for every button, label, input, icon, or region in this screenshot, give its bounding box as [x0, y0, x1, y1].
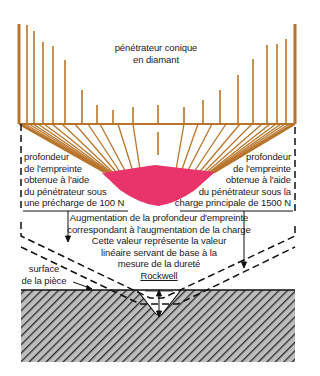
- increase-label: Augmentation de la profondeur d'empreint…: [64, 212, 254, 281]
- label-line: obtenue à l'aide: [24, 174, 124, 186]
- surface-pointer-icon: [87, 286, 93, 291]
- label-line: de la pièce: [20, 275, 68, 287]
- penetrator-fan-line: [133, 124, 140, 170]
- surface-label: surface de la pièce: [20, 263, 68, 286]
- label-line: profondeur: [175, 151, 291, 163]
- label-line: surface: [20, 263, 68, 275]
- label-line: pénétrateur conique: [100, 42, 212, 54]
- mainload-depth-label: profondeur de l'empreinte obtenue à l'ai…: [175, 151, 291, 209]
- label-line: de l'empreinte: [24, 163, 124, 175]
- penetrator-label: pénétrateur conique en diamant: [100, 42, 212, 65]
- workpiece: [21, 290, 295, 362]
- rockwell-label: Rockwell: [64, 270, 254, 282]
- label-line: obtenue à l'aide: [175, 174, 291, 186]
- label-line: correspondant à l'augmentation de la cha…: [64, 224, 254, 236]
- label-line: une précharge de 100 N: [24, 197, 124, 209]
- preload-depth-label: profondeur de l'empreinte obtenue à l'ai…: [24, 151, 124, 209]
- label-line: Cette valeur représente la valeur: [64, 235, 254, 247]
- label-line: du pénétrateur sous: [24, 186, 124, 198]
- label-line: du pénétrateur sous la: [175, 186, 291, 198]
- label-line: en diamant: [100, 54, 212, 66]
- label-line: mesure de la dureté: [64, 258, 254, 270]
- label-line: charge principale de 1500 N: [175, 197, 291, 209]
- label-line: Augmentation de la profondeur d'empreint…: [64, 212, 254, 224]
- label-line: linéaire servant de base à la: [64, 247, 254, 259]
- label-line: de l'empreinte: [175, 163, 291, 175]
- label-line: profondeur: [24, 151, 124, 163]
